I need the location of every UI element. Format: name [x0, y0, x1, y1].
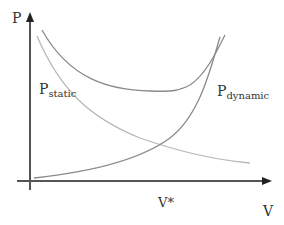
static-power-label: Pstatic	[39, 82, 76, 99]
dynamic-power-label: Pdynamic	[217, 84, 269, 101]
dynamic-label-sub: dynamic	[226, 90, 269, 101]
y-axis-arrow-icon	[26, 12, 34, 22]
power-voltage-diagram: P V V* Pstatic Pdynamic	[0, 0, 284, 225]
static-label-main: P	[39, 81, 48, 97]
dynamic-label-main: P	[217, 83, 226, 99]
v-star-label: V*	[158, 196, 174, 209]
x-axis-label: V	[263, 204, 273, 218]
y-axis-label: P	[12, 11, 21, 25]
x-axis-arrow-icon	[262, 177, 272, 185]
static-label-sub: static	[48, 88, 76, 99]
diagram-canvas	[0, 0, 284, 225]
